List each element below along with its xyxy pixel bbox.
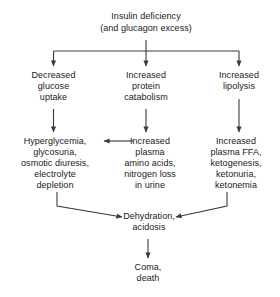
node-decreased-glucose-uptake: Decreased glucose uptake bbox=[8, 70, 100, 103]
node-insulin-deficiency: Insulin deficiency (and glucagon excess) bbox=[71, 11, 221, 34]
node-dehydration-acidosis: Dehydration, acidosis bbox=[101, 211, 197, 233]
insulin-deficiency-flowchart: Insulin deficiency (and glucagon excess)… bbox=[0, 0, 280, 297]
node-increased-protein-catabolism: Increased protein catabolism bbox=[100, 70, 192, 103]
node-hyperglycemia-group: Hyperglycemia, glycosuria, osmotic diure… bbox=[4, 136, 106, 191]
node-increased-plasma-ffa: Increased plasma FFA, ketogenesis, keton… bbox=[193, 136, 279, 191]
node-coma-death: Coma, death bbox=[113, 262, 183, 284]
node-increased-plasma-amino-acids: Increased plasma amino acids, nitrogen l… bbox=[110, 136, 190, 191]
node-increased-lipolysis: Increased lipolysis bbox=[198, 70, 280, 92]
